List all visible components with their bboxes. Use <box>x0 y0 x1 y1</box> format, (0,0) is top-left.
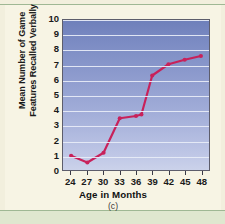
data-point <box>183 58 187 62</box>
gridline <box>63 66 209 67</box>
x-axis-tick-labels: 242730333639424548 <box>52 176 220 189</box>
gridline <box>63 81 209 82</box>
y-axis-tick-label: 6 <box>35 75 59 85</box>
gridline <box>63 157 209 158</box>
page-bottom-band <box>0 211 225 224</box>
x-axis-tick <box>185 171 186 175</box>
x-axis-tick <box>169 171 170 175</box>
gridline <box>63 35 209 36</box>
x-axis-tick <box>70 171 71 175</box>
x-axis-tick <box>136 171 137 175</box>
gridline <box>63 20 209 21</box>
y-axis-tick-label: 7 <box>35 60 59 70</box>
chart-figure: Mean Number of Game Features Recalled Ve… <box>5 6 221 210</box>
figure-caption: (c) <box>5 201 221 211</box>
data-point <box>134 114 138 118</box>
data-point <box>199 54 203 58</box>
data-series-line <box>63 20 209 170</box>
x-axis-tick <box>103 171 104 175</box>
y-axis-title-line1: Mean Number of Game <box>17 0 28 123</box>
gridline <box>63 126 209 127</box>
x-axis-tick <box>87 171 88 175</box>
page-right-margin <box>221 5 225 210</box>
x-axis-tick <box>152 171 153 175</box>
gridline <box>63 142 209 143</box>
y-axis-tick-label: 8 <box>35 44 59 54</box>
y-axis-tick-labels: 012345678910 <box>35 14 59 176</box>
y-axis-tick-label: 2 <box>35 136 59 146</box>
gridline <box>63 111 209 112</box>
y-axis-tick-label: 0 <box>35 166 59 176</box>
y-axis-tick-label: 3 <box>35 120 59 130</box>
data-point <box>150 73 154 77</box>
x-axis-tick <box>202 171 203 175</box>
data-point <box>139 112 143 116</box>
data-point <box>101 151 105 155</box>
series-line <box>71 56 201 163</box>
gridline <box>63 50 209 51</box>
figure-page: Mean Number of Game Features Recalled Ve… <box>0 0 225 224</box>
y-axis-tick-label: 10 <box>35 14 59 24</box>
x-axis-tick <box>120 171 121 175</box>
y-axis-tick-label: 5 <box>35 90 59 100</box>
y-axis-tick-label: 1 <box>35 151 59 161</box>
x-axis-title: Age in Months <box>5 189 221 200</box>
plot-area <box>62 19 210 171</box>
data-point <box>85 160 89 164</box>
gridline <box>63 96 209 97</box>
y-axis-tick-label: 9 <box>35 29 59 39</box>
x-axis-tick-label: 48 <box>192 176 212 187</box>
data-point <box>118 116 122 120</box>
y-axis-tick-label: 4 <box>35 105 59 115</box>
